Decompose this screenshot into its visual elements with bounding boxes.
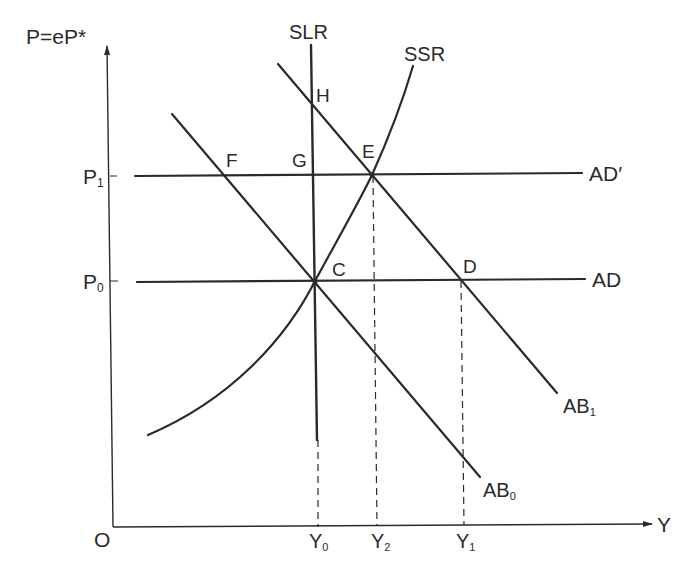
point-c-dot [312,278,317,283]
point-c-label: C [332,259,346,280]
ab0-label: AB0 [483,479,516,502]
point-g-label: G [292,150,307,171]
ab1-label: AB1 [563,395,596,418]
economic-diagram: P=eP* Y O P1 P0 Y0 Y2 Y1 SLR SSR AD′ AD … [0,0,693,573]
point-d-label: D [463,256,477,277]
p1-label: P1 [83,165,104,190]
origin-label: O [94,528,110,551]
slr-label: SLR [289,21,328,43]
ad-prime-line [135,173,582,176]
point-e-dot [370,173,375,178]
y-axis [107,46,113,527]
x-axis [113,524,652,527]
ad-line [137,279,585,282]
point-f-label: F [226,150,238,171]
point-e-label: E [362,141,375,162]
y2-label: Y2 [371,530,390,553]
ssr-label: SSR [404,43,445,65]
y0-label: Y0 [309,530,328,553]
ad-label: AD [592,268,621,291]
ab0-line [172,114,480,477]
y-axis-label: P=eP* [26,25,86,48]
ab1-line [278,64,557,393]
p0-label: P0 [83,270,104,295]
ad-prime-label: AD′ [589,162,622,185]
x-axis-label: Y [657,513,671,536]
point-h-label: H [316,85,330,106]
ssr-curve [148,66,413,435]
y1-label: Y1 [456,530,475,553]
dashed-y1 [461,281,464,525]
